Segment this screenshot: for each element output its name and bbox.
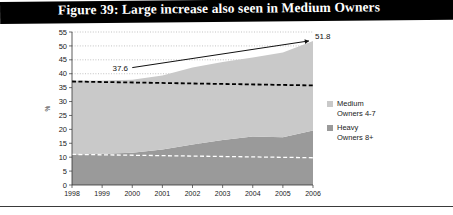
legend-swatch-medium-icon: [327, 101, 333, 107]
footer-divider: [0, 206, 453, 207]
annotation-start-value-label: 37.6: [112, 64, 128, 73]
ytick-label-50: 50: [59, 42, 67, 51]
xtick-label-1998: 1998: [64, 190, 80, 197]
ytick-label-35: 35: [59, 83, 67, 92]
xtick-label-2006: 2006: [305, 190, 321, 197]
xtick-label-2005: 2005: [275, 190, 291, 197]
xtick-label-2004: 2004: [245, 190, 261, 197]
xtick-label-2003: 2003: [215, 190, 231, 197]
ytick-label-15: 15: [59, 139, 67, 148]
y-axis-title: %: [44, 105, 51, 111]
xtick-label-1999: 1999: [94, 190, 110, 197]
legend-swatch-heavy-icon: [327, 125, 333, 131]
ytick-label-20: 20: [59, 125, 67, 134]
ytick-label-45: 45: [59, 55, 67, 64]
figure-caption: [22, 208, 442, 215]
figure-39: Figure 39: Large increase also seen in M…: [0, 0, 453, 215]
ytick-label-5: 5: [63, 167, 67, 176]
legend-item-heavy-owners[interactable]: Heavy Owners 8+: [327, 123, 447, 142]
ytick-label-40: 40: [59, 69, 67, 78]
chart-legend: Medium Owners 4-7 Heavy Owners 8+: [327, 99, 447, 147]
xtick-label-2002: 2002: [185, 190, 201, 197]
legend-item-medium-owners[interactable]: Medium Owners 4-7: [327, 99, 447, 118]
xtick-label-2000: 2000: [124, 190, 140, 197]
annotation-end-value-label: 51.8: [315, 32, 331, 41]
ytick-label-25: 25: [59, 111, 67, 120]
legend-label-medium: Medium Owners 4-7: [337, 99, 376, 118]
ytick-label-30: 30: [59, 97, 67, 106]
ytick-label-0: 0: [63, 181, 67, 190]
legend-label-heavy: Heavy Owners 8+: [337, 123, 373, 142]
xtick-label-2001: 2001: [155, 190, 171, 197]
ytick-label-10: 10: [59, 153, 67, 162]
ytick-label-55: 55: [59, 28, 67, 37]
